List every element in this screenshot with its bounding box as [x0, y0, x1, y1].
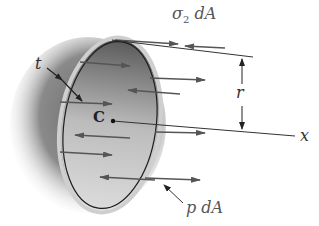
axis-label: x — [300, 128, 309, 144]
sigma-label: σ2 dA — [172, 6, 216, 25]
thickness-label: t — [35, 56, 41, 72]
pressure-label: p dA — [186, 200, 223, 216]
center-point — [111, 119, 115, 123]
hemisphere-diagram — [0, 0, 319, 226]
radius-label: r — [236, 85, 244, 101]
center-label: C — [93, 110, 105, 125]
pressure-leader — [164, 185, 183, 203]
